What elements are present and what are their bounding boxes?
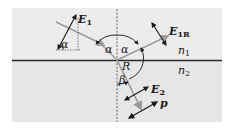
- refraction-angle-label: β: [118, 74, 125, 87]
- incidence-angle-label: α: [105, 43, 113, 56]
- polarization-label: p: [160, 97, 168, 110]
- optics-diagram: α E1 α α R β E1R n1 n2 E2 p: [0, 0, 233, 128]
- reflection-angle-label: α: [121, 43, 129, 56]
- medium-2-region: [12, 60, 222, 122]
- incident-angle-label: α: [61, 38, 69, 51]
- r-arc-label: R: [121, 60, 130, 73]
